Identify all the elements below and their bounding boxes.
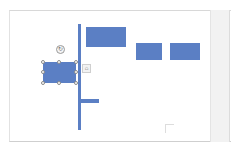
resize-handle-e[interactable]	[74, 70, 78, 74]
resize-handle-w[interactable]	[41, 70, 45, 74]
selected-box-shape[interactable]	[43, 62, 76, 83]
resize-handle-s[interactable]	[57, 81, 61, 85]
editor-canvas: ↻ ⌂	[0, 0, 240, 161]
resize-handle-nw[interactable]	[41, 60, 45, 64]
rotate-icon[interactable]: ↻	[56, 45, 65, 54]
layout-options-icon[interactable]: ⌂	[82, 64, 91, 73]
resize-handle-se[interactable]	[74, 81, 78, 85]
crop-corner-mark	[165, 124, 174, 133]
side-panel	[210, 10, 230, 142]
trunk-line-shape[interactable]	[78, 24, 81, 130]
mid-box-2-shape[interactable]	[170, 43, 200, 60]
resize-handle-n[interactable]	[57, 60, 61, 64]
branch-stub-shape[interactable]	[81, 99, 99, 103]
top-box-shape[interactable]	[86, 27, 126, 47]
resize-handle-sw[interactable]	[41, 81, 45, 85]
mid-box-1-shape[interactable]	[136, 43, 162, 60]
resize-handle-ne[interactable]	[74, 60, 78, 64]
